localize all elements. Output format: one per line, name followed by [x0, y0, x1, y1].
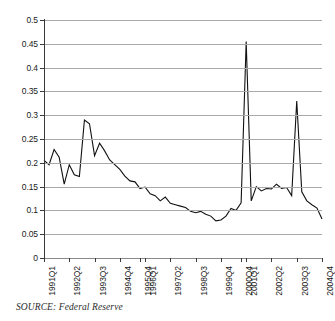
y-tick-label-0.5: 0.5: [2, 16, 38, 25]
y-tick-label-0.45: 0.45: [2, 40, 38, 49]
x-tick-label-1998Q3: 1998Q3: [200, 266, 209, 296]
x-tick-mark-1999Q4: [221, 258, 222, 262]
x-tick-label-1999Q4: 1999Q4: [225, 266, 234, 296]
y-tick-label-0.1: 0.1: [2, 206, 38, 215]
gridline-y-0.25: [44, 139, 322, 140]
x-tick-mark-1998Q3: [196, 258, 197, 262]
y-tick-label-0: 0: [2, 254, 38, 263]
y-axis-line: [44, 19, 45, 259]
x-tick-label-2002Q2: 2002Q2: [275, 266, 284, 296]
y-axis-tick-labels: 00.050.10.150.20.250.30.350.40.450.5: [0, 0, 38, 321]
y-tick-mark-0.35: [40, 91, 44, 92]
x-tick-label-1997Q2: 1997Q2: [174, 266, 183, 296]
gridline-y-0.4: [44, 68, 322, 69]
gridline-y-0.15: [44, 187, 322, 188]
y-tick-label-0.25: 0.25: [2, 135, 38, 144]
y-tick-mark-0.4: [40, 68, 44, 69]
gridline-y-0: [44, 258, 322, 259]
x-tick-mark-1992Q2: [69, 258, 70, 262]
x-tick-mark-1993Q3: [95, 258, 96, 262]
x-tick-mark-1995Q4: [140, 258, 141, 262]
gridline-y-0.2: [44, 163, 322, 164]
y-tick-label-0.4: 0.4: [2, 64, 38, 73]
x-tick-mark-1996Q1: [145, 258, 146, 262]
y-tick-label-0.35: 0.35: [2, 87, 38, 96]
x-tick-mark-2001Q1: [246, 258, 247, 262]
y-tick-mark-0.25: [40, 139, 44, 140]
x-tick-mark-2002Q2: [271, 258, 272, 262]
x-tick-label-2003Q3: 2003Q3: [301, 266, 310, 296]
x-tick-label-2004Q4: 2004Q4: [326, 266, 335, 296]
y-tick-mark-0.15: [40, 187, 44, 188]
chart-title: [44, 2, 322, 14]
x-tick-label-2001Q1: 2001Q1: [250, 266, 259, 296]
y-tick-mark-0.2: [40, 163, 44, 164]
x-tick-label-1993Q3: 1993Q3: [99, 266, 108, 296]
x-tick-mark-2004Q4: [322, 258, 323, 262]
gridline-y-0.05: [44, 234, 322, 235]
y-tick-mark-0.1: [40, 210, 44, 211]
gridline-y-0.1: [44, 210, 322, 211]
x-tick-mark-1994Q4: [120, 258, 121, 262]
y-tick-mark-0.3: [40, 115, 44, 116]
source-note: SOURCE: Federal Reserve: [16, 302, 123, 312]
y-tick-label-0.2: 0.2: [2, 159, 38, 168]
gridline-y-0.35: [44, 91, 322, 92]
x-tick-label-1996Q1: 1996Q1: [149, 266, 158, 296]
y-tick-mark-0.05: [40, 234, 44, 235]
gridline-y-0.5: [44, 20, 322, 21]
y-tick-label-0.3: 0.3: [2, 111, 38, 120]
gridline-y-0.3: [44, 115, 322, 116]
y-tick-label-0.15: 0.15: [2, 183, 38, 192]
x-tick-mark-2000Q4: [241, 258, 242, 262]
y-tick-mark-0.5: [40, 20, 44, 21]
x-tick-label-1992Q2: 1992Q2: [73, 266, 82, 296]
x-tick-label-1994Q4: 1994Q4: [124, 266, 133, 296]
y-tick-mark-0.45: [40, 44, 44, 45]
plot-area: [44, 20, 322, 258]
x-tick-mark-2003Q3: [297, 258, 298, 262]
x-tick-mark-1997Q2: [170, 258, 171, 262]
gridline-y-0.45: [44, 44, 322, 45]
x-tick-label-1991Q1: 1991Q1: [48, 266, 57, 296]
x-tick-mark-1991Q1: [44, 258, 45, 262]
y-tick-label-0.05: 0.05: [2, 230, 38, 239]
